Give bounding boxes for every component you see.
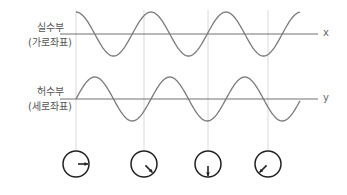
phasor-circle (255, 151, 281, 177)
real-part-title: 실수부 (20, 20, 80, 35)
imag-part-label: 허수부 (세로좌표) (20, 84, 80, 114)
y-axis-label: y (323, 92, 329, 103)
real-part-label: 실수부 (가로좌표) (20, 20, 80, 50)
imag-part-title: 허수부 (20, 84, 80, 99)
real-part-subtitle: (가로좌표) (20, 35, 80, 50)
x-axis-label: x (323, 27, 329, 38)
imag-part-subtitle: (세로좌표) (20, 99, 80, 114)
phasor-arrow-icon (84, 162, 88, 166)
phasor-arrow-icon (206, 172, 210, 176)
phasor-circle (131, 151, 157, 177)
